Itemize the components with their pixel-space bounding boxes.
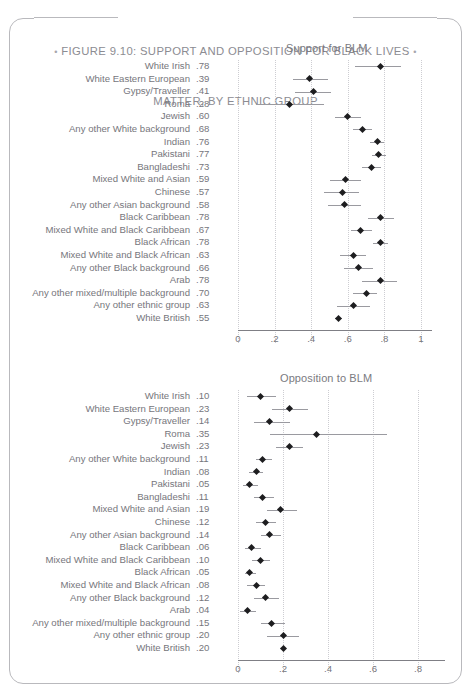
data-point-marker [252, 582, 259, 589]
row-value: .05 [196, 566, 220, 579]
row-label: Any other Asian background [0, 529, 190, 542]
data-point-marker [313, 431, 320, 438]
data-point-marker [261, 519, 268, 526]
row-value: .78 [196, 274, 220, 287]
row-label: White Irish [0, 60, 190, 73]
row-label: Roma [0, 428, 190, 441]
row-label: White Irish [0, 390, 190, 403]
gridline [311, 60, 312, 343]
x-axis-tick-label: .2 [279, 663, 287, 674]
row-value: .73 [196, 161, 220, 174]
row-value: .41 [196, 85, 220, 98]
x-axis-line [238, 660, 445, 661]
row-label: Black Caribbean [0, 211, 190, 224]
row-label: Jewish [0, 440, 190, 453]
row-label: Arab [0, 604, 190, 617]
row-value: .63 [196, 249, 220, 262]
data-point-marker [377, 277, 384, 284]
row-label: Indian [0, 136, 190, 149]
row-value: .77 [196, 148, 220, 161]
row-value: .05 [196, 478, 220, 491]
data-point-marker [377, 63, 384, 70]
gridline [373, 390, 374, 673]
data-point-marker [279, 632, 286, 639]
gridline [275, 60, 276, 343]
data-point-marker [279, 645, 286, 652]
x-axis-tick-label: 0 [235, 663, 240, 674]
gridline [328, 390, 329, 673]
row-value: .59 [196, 173, 220, 186]
x-axis-tick-label: .8 [414, 663, 422, 674]
data-point-marker [344, 113, 351, 120]
row-label: Mixed White and Black African [0, 249, 190, 262]
data-point-marker [246, 481, 253, 488]
plot-support: 0.2.4.6.81 [228, 42, 434, 372]
row-label: Any other mixed/multiple background [0, 287, 190, 300]
row-label: Bangladeshi [0, 491, 190, 504]
row-value: .58 [196, 199, 220, 212]
row-value: .19 [196, 503, 220, 516]
row-value: .12 [196, 516, 220, 529]
row-value: .63 [196, 299, 220, 312]
data-point-marker [374, 138, 381, 145]
row-label: Mixed White and Black Caribbean [0, 224, 190, 237]
row-label: Chinese [0, 186, 190, 199]
row-label: Any other ethnic group [0, 629, 190, 642]
row-value: .78 [196, 60, 220, 73]
gridline [418, 390, 419, 673]
data-point-marker [243, 607, 250, 614]
row-value: .11 [196, 453, 220, 466]
row-label: Black Caribbean [0, 541, 190, 554]
gridline [421, 60, 422, 343]
row-label: Arab [0, 274, 190, 287]
row-label: Any other Black background [0, 592, 190, 605]
row-label: White Eastern European [0, 403, 190, 416]
row-value: .67 [196, 224, 220, 237]
data-point-marker [248, 544, 255, 551]
row-value: .60 [196, 110, 220, 123]
data-point-marker [261, 594, 268, 601]
row-label: Any other Asian background [0, 199, 190, 212]
data-point-marker [286, 405, 293, 412]
x-axis-line [238, 330, 432, 331]
row-value: .10 [196, 390, 220, 403]
row-label: White British [0, 312, 190, 325]
figure-root: • FIGURE 9.10: SUPPORT AND OPPOSITION FO… [0, 0, 471, 692]
data-point-marker [359, 126, 366, 133]
row-value: .20 [196, 642, 220, 655]
row-label: Mixed White and Asian [0, 173, 190, 186]
row-value: .28 [196, 98, 220, 111]
row-value: .23 [196, 403, 220, 416]
row-value: .06 [196, 541, 220, 554]
row-label: White British [0, 642, 190, 655]
row-value: .78 [196, 211, 220, 224]
data-point-marker [259, 494, 266, 501]
data-point-marker [355, 264, 362, 271]
row-value: .04 [196, 604, 220, 617]
row-label: Black African [0, 236, 190, 249]
row-label: Mixed White and Black African [0, 579, 190, 592]
row-value: .10 [196, 554, 220, 567]
x-axis-tick-label: .8 [380, 333, 388, 344]
plot-opposition: 0.2.4.6.8 [228, 372, 434, 684]
x-axis-tick-labels: 0.2.4.6.8 [228, 663, 434, 677]
row-label: Any other mixed/multiple background [0, 617, 190, 630]
row-value: .11 [196, 491, 220, 504]
gridline [283, 390, 284, 673]
data-point-marker [341, 201, 348, 208]
row-label: Gypsy/Traveller [0, 415, 190, 428]
gridline [238, 60, 239, 343]
row-label: Any other ethnic group [0, 299, 190, 312]
x-axis-tick-label: .6 [369, 663, 377, 674]
gridline [348, 60, 349, 343]
data-point-marker [350, 302, 357, 309]
data-point-marker [257, 557, 264, 564]
panel-support-for-blm: Support for BLM White Irish.78White East… [0, 42, 471, 372]
row-label: Gypsy/Traveller [0, 85, 190, 98]
row-label: Any other White background [0, 123, 190, 136]
x-axis-tick-label: .4 [324, 663, 332, 674]
data-point-marker [335, 315, 342, 322]
row-label: Mixed White and Black Caribbean [0, 554, 190, 567]
data-point-marker [266, 418, 273, 425]
data-point-marker [357, 227, 364, 234]
